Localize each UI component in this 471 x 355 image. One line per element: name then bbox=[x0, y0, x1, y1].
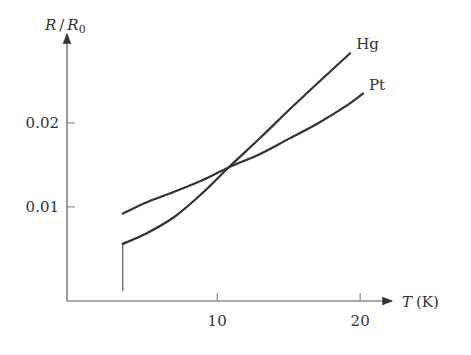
chart: 10200.010.02 HgPt R/R0 T(K) bbox=[0, 0, 471, 355]
y-axis-label: R/R0 bbox=[44, 16, 86, 36]
x-axis-label: T(K) bbox=[402, 293, 439, 311]
series-label-pt: Pt bbox=[369, 76, 385, 94]
y-tick-label: 0.02 bbox=[26, 114, 59, 132]
series-line-hg bbox=[123, 53, 350, 244]
y-tick-label: 0.01 bbox=[26, 198, 59, 216]
x-tick-label: 10 bbox=[208, 312, 227, 330]
series-label-hg: Hg bbox=[356, 35, 379, 53]
x-tick-label: 20 bbox=[351, 312, 370, 330]
